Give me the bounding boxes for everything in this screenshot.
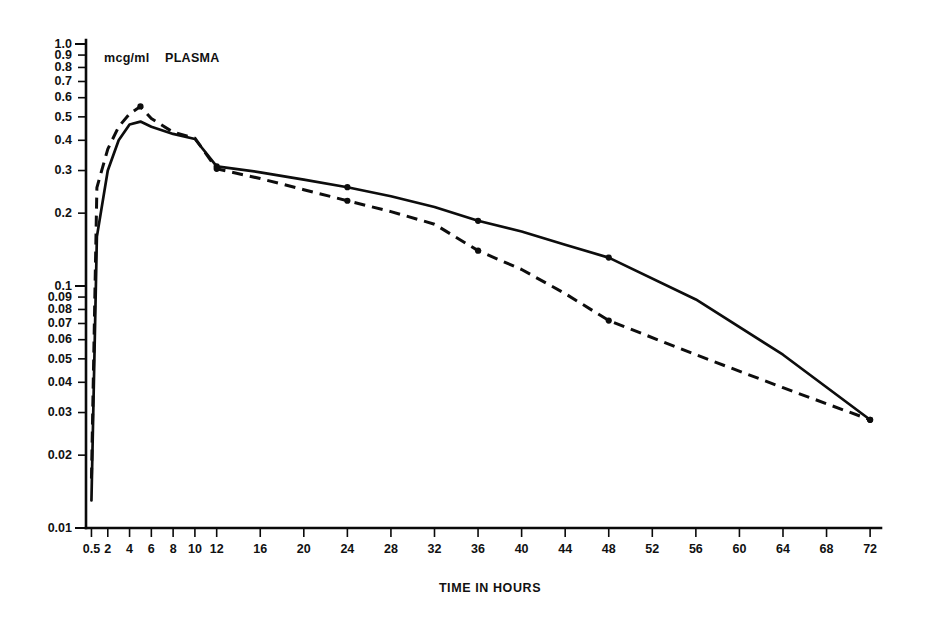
x-axis-tick-label: 32 [428, 542, 442, 556]
x-axis-tick-label: 72 [863, 542, 877, 556]
x-axis-tick-label: 16 [253, 542, 267, 556]
y-axis-tick-label: 0.06 [48, 332, 72, 346]
x-axis-tick-label: 48 [602, 542, 616, 556]
data-point-marker [606, 255, 612, 261]
y-axis-ticks [75, 44, 86, 528]
series-line-solid-curve [91, 122, 870, 501]
chart-series-group [91, 106, 870, 500]
x-axis-tick-label: 36 [471, 542, 485, 556]
x-axis-tick-label: 20 [297, 542, 311, 556]
x-axis-tick-label: 60 [732, 542, 746, 556]
data-point-marker [344, 198, 350, 204]
y-axis-tick-label: 0.3 [55, 163, 72, 177]
x-axis-tick-label: 4 [126, 542, 133, 556]
x-axis-tick-label: 10 [188, 542, 202, 556]
x-axis-tick-label: 2 [104, 542, 111, 556]
x-axis-tick-label: 64 [776, 542, 790, 556]
y-axis-tick-label: 0.04 [48, 375, 72, 389]
x-axis-tick-label: 68 [820, 542, 834, 556]
x-axis-tick-labels: 0.52468101216202428323640444852566064687… [83, 542, 877, 556]
x-axis-tick-label: 44 [558, 542, 572, 556]
data-point-marker [214, 166, 220, 172]
x-axis-tick-label: 6 [148, 542, 155, 556]
x-axis-tick-label: 28 [384, 542, 398, 556]
x-axis-tick-label: 12 [210, 542, 224, 556]
y-axis-tick-labels: 1.00.90.80.70.60.50.40.30.20.10.090.080.… [48, 37, 72, 535]
y-axis-tick-label: 0.05 [48, 352, 72, 366]
data-point-marker [137, 103, 143, 109]
data-point-marker [475, 248, 481, 254]
unit-label: mcg/ml [104, 51, 150, 65]
y-axis-tick-label: 0.6 [55, 90, 72, 104]
plasma-concentration-chart: 1.00.90.80.70.60.50.40.30.20.10.090.080.… [0, 0, 931, 631]
chart-page: 1.00.90.80.70.60.50.40.30.20.10.090.080.… [0, 0, 931, 631]
y-axis-tick-label: 0.8 [55, 60, 72, 74]
y-axis-tick-label: 0.5 [55, 110, 72, 124]
chart-axes [86, 40, 881, 528]
x-axis-tick-label: 56 [689, 542, 703, 556]
x-axis-tick-label: 0.5 [83, 542, 100, 556]
y-axis-tick-label: 0.7 [55, 74, 72, 88]
data-point-marker [475, 218, 481, 224]
x-axis-tick-label: 8 [170, 542, 177, 556]
y-axis-tick-label: 0.07 [48, 316, 72, 330]
y-axis-tick-label: 0.01 [48, 521, 72, 535]
x-axis-tick-label: 40 [515, 542, 529, 556]
x-axis-ticks [91, 528, 870, 537]
data-point-marker [867, 417, 873, 423]
x-axis-tick-label: 24 [340, 542, 354, 556]
x-axis-tick-label: 52 [645, 542, 659, 556]
panel-label: PLASMA [165, 51, 220, 65]
y-axis-tick-label: 0.2 [55, 206, 72, 220]
y-axis-tick-label: 0.08 [48, 302, 72, 316]
x-axis-title: TIME IN HOURS [439, 581, 541, 595]
y-axis-tick-label: 0.4 [55, 133, 72, 147]
y-axis-tick-label: 0.03 [48, 405, 72, 419]
series-line-dashed-curve [91, 106, 870, 478]
y-axis-tick-label: 0.02 [48, 448, 72, 462]
data-point-marker [606, 317, 612, 323]
data-point-marker [344, 184, 350, 190]
